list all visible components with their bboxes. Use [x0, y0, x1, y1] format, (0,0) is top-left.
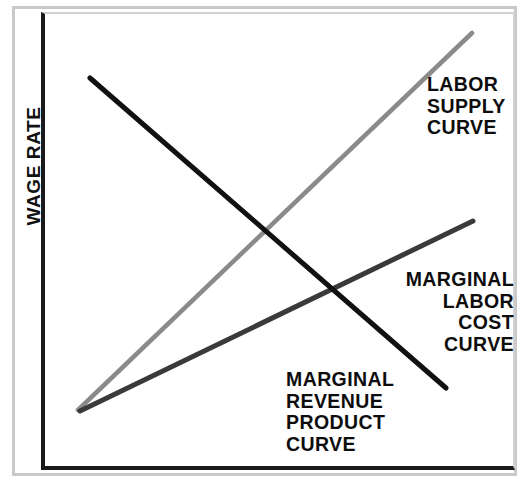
y-axis-label: WAGE RATE: [23, 96, 45, 236]
marginal-labor-cost-curve-label: MARGINAL LABOR COST CURVE: [333, 269, 514, 356]
monopsony-labor-market-chart: WAGE RATE LABOR SUPPLY CURVE MARGINAL LA…: [0, 0, 529, 484]
marginal-revenue-product-curve-label: MARGINAL REVENUE PRODUCT CURVE: [286, 369, 394, 456]
labor-supply-curve-label: LABOR SUPPLY CURVE: [427, 74, 506, 139]
